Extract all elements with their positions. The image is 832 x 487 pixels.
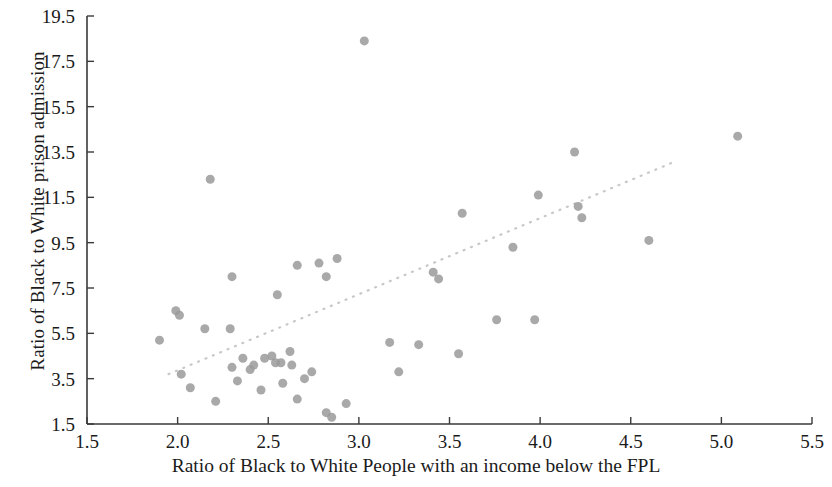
y-tick-label: 5.5 xyxy=(51,323,75,344)
data-point xyxy=(257,386,266,395)
data-point xyxy=(206,175,215,184)
data-point xyxy=(287,361,296,370)
x-tick-label: 3.5 xyxy=(438,431,462,452)
data-point xyxy=(233,376,242,385)
data-point xyxy=(385,338,394,347)
data-point xyxy=(394,367,403,376)
tick-labels: 1.52.02.53.03.54.04.55.05.51.53.55.57.59… xyxy=(42,6,824,452)
data-point xyxy=(570,148,579,157)
data-point xyxy=(733,132,742,141)
data-point xyxy=(458,209,467,218)
data-point xyxy=(508,243,517,252)
plot-area: 1.52.02.53.03.54.04.55.05.51.53.55.57.59… xyxy=(0,0,832,487)
data-point xyxy=(273,290,282,299)
data-point xyxy=(177,370,186,379)
data-point xyxy=(228,363,237,372)
y-tick-label: 19.5 xyxy=(42,6,75,27)
y-tick-label: 7.5 xyxy=(51,278,75,299)
data-point xyxy=(228,272,237,281)
y-tick-label: 17.5 xyxy=(42,51,75,72)
y-tick-label: 1.5 xyxy=(51,414,75,435)
data-point xyxy=(278,379,287,388)
data-point xyxy=(534,191,543,200)
x-tick-label: 4.5 xyxy=(619,431,643,452)
plot-svg: 1.52.02.53.03.54.04.55.05.51.53.55.57.59… xyxy=(0,0,832,487)
y-tick-label: 13.5 xyxy=(42,142,75,163)
y-tick-label: 11.5 xyxy=(42,187,75,208)
y-tick-label: 9.5 xyxy=(51,233,75,254)
x-tick-label: 1.5 xyxy=(75,431,99,452)
data-point xyxy=(315,259,324,268)
data-point xyxy=(155,336,164,345)
data-point xyxy=(293,395,302,404)
data-point xyxy=(434,274,443,283)
axes xyxy=(87,16,812,424)
data-point xyxy=(322,272,331,281)
x-tick-label: 5.0 xyxy=(710,431,734,452)
scatter-chart-figure: Ratio of Black to White prison admission… xyxy=(0,0,832,487)
data-point xyxy=(342,399,351,408)
x-tick-label: 2.5 xyxy=(256,431,280,452)
data-point xyxy=(307,367,316,376)
x-tick-label: 2.0 xyxy=(166,431,190,452)
data-point xyxy=(238,354,247,363)
data-point xyxy=(327,413,336,422)
data-point xyxy=(211,397,220,406)
data-point xyxy=(186,383,195,392)
data-point xyxy=(530,315,539,324)
y-tick-label: 3.5 xyxy=(51,369,75,390)
data-point xyxy=(333,254,342,263)
data-point xyxy=(249,361,258,370)
data-point xyxy=(414,340,423,349)
data-point xyxy=(300,374,309,383)
data-point xyxy=(360,36,369,45)
data-points xyxy=(155,36,742,421)
data-point xyxy=(276,358,285,367)
data-point xyxy=(286,347,295,356)
data-point xyxy=(454,349,463,358)
data-point xyxy=(577,213,586,222)
data-point xyxy=(175,311,184,320)
x-tick-label: 5.5 xyxy=(800,431,824,452)
data-point xyxy=(492,315,501,324)
x-tick-label: 4.0 xyxy=(528,431,552,452)
data-point xyxy=(574,202,583,211)
data-point xyxy=(200,324,209,333)
data-point xyxy=(293,261,302,270)
data-point xyxy=(644,236,653,245)
data-point xyxy=(226,324,235,333)
y-tick-label: 15.5 xyxy=(42,97,75,118)
x-tick-label: 3.0 xyxy=(347,431,371,452)
